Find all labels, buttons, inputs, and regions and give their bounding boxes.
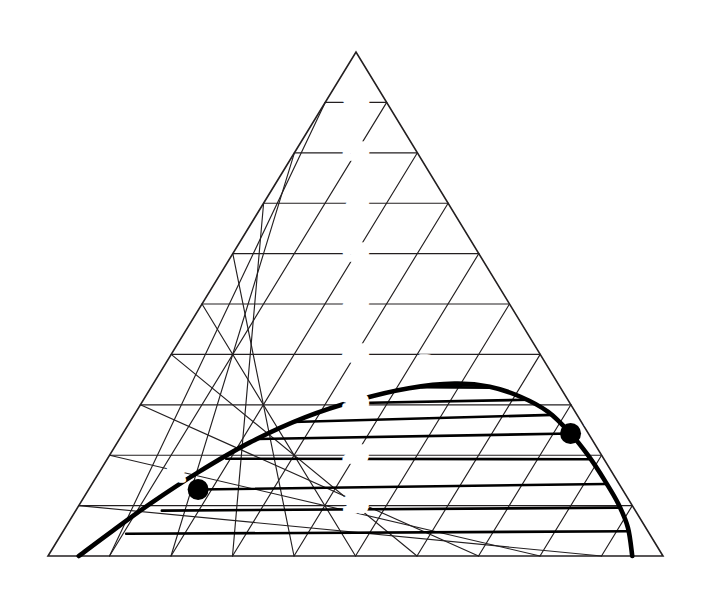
data-point-marker-e xyxy=(560,423,581,444)
tie-line xyxy=(198,484,605,490)
bottom-axis-tick-label: 60 xyxy=(406,570,429,593)
grid-line-constant-b xyxy=(233,203,449,556)
left-axis-tick-label: 30 xyxy=(222,190,244,213)
bottom-axis-tick-label: 30 xyxy=(221,570,244,593)
bottom-axis-tick-label: 20 xyxy=(160,570,183,593)
bottom-axis-letter-tick: J xyxy=(73,570,85,593)
center-axis-tick-label: 90 xyxy=(345,89,367,112)
bottom-axis-tick-label: 70 xyxy=(467,570,490,593)
vertex-label-b: B xyxy=(674,535,690,559)
bottom-axis-tick-label: 90 xyxy=(590,570,613,593)
left-axis-tick-label: 50 xyxy=(161,290,183,313)
bottom-axis-tick-label: 50 xyxy=(344,570,367,593)
data-points-group: PRE xyxy=(168,353,599,500)
center-axis-tick-label: 60 xyxy=(345,240,367,263)
left-axis-tick-label: 90 xyxy=(38,492,60,515)
ternary-diagram: 1020304050607080909080706050403020100102… xyxy=(0,0,714,611)
left-axis-tick-label: 20 xyxy=(253,139,275,162)
center-axis-tick-label: 70 xyxy=(345,190,367,213)
bottom-axis-tick-label: 40 xyxy=(283,570,306,593)
center-axis-tick-label: 30 xyxy=(345,391,367,414)
tie-line xyxy=(293,415,553,422)
tie-line xyxy=(162,508,619,511)
bottom-axis-letter-tick: K xyxy=(625,570,640,593)
bottom-axis-tick-label: 0 xyxy=(42,570,53,593)
grid-line-constant-b xyxy=(479,405,571,556)
ternary-plot-canvas: 1020304050607080909080706050403020100102… xyxy=(0,0,714,611)
center-axis-tick-label: 50 xyxy=(345,290,367,313)
vertex-label-a: A xyxy=(22,535,38,559)
left-axis-tick-label: 40 xyxy=(192,240,214,263)
bottom-axis-tick-label: 100 xyxy=(646,570,680,593)
left-axis-tick-label: 60 xyxy=(130,341,152,364)
tie-line xyxy=(258,434,571,440)
point-label-r: R xyxy=(168,461,184,485)
center-axis-tick-label: 80 xyxy=(345,139,367,162)
tie-lines-group xyxy=(126,387,629,534)
point-label-e: E xyxy=(585,405,599,429)
center-axis-tick-label: 20 xyxy=(344,442,366,465)
point-label-p: P xyxy=(419,353,433,377)
tie-line xyxy=(344,400,528,404)
center-axis-tick-label: 40 xyxy=(345,341,367,364)
bottom-axis-tick-label: 10 xyxy=(98,570,121,593)
vertex-label-c: C xyxy=(348,16,364,40)
data-point-marker-r xyxy=(188,479,209,500)
tie-line xyxy=(226,459,590,460)
left-axis-tick-label: 70 xyxy=(99,391,121,414)
bottom-axis-tick-label: 80 xyxy=(529,570,552,593)
left-axis-tick-label: 80 xyxy=(68,442,90,465)
center-axis-tick-label: 10 xyxy=(344,492,366,515)
left-axis-tick-label: 10 xyxy=(284,89,306,112)
